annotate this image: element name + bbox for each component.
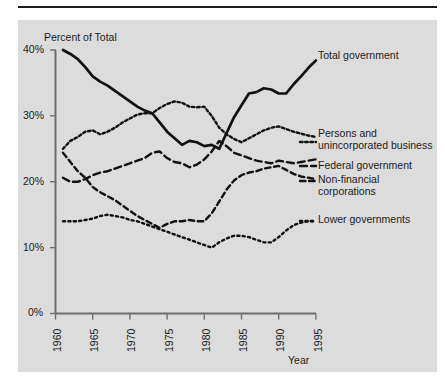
- series-label-lower-governments: Lower governments: [318, 214, 410, 226]
- axis-lines: [56, 50, 317, 314]
- x-tick-label-1960: 1960: [52, 329, 64, 352]
- x-tick-label-1965: 1965: [89, 329, 101, 352]
- x-tick-label-1995: 1995: [313, 329, 325, 352]
- x-tick-label-1990: 1990: [275, 329, 287, 352]
- y-tick-label-10: 10%: [23, 242, 44, 254]
- series-label-persons-unincorporated-business: Persons and unincorporated business: [318, 128, 432, 152]
- y-tick-label-20: 20%: [23, 176, 44, 188]
- x-tick-label-1970: 1970: [126, 329, 138, 352]
- series-line-federal-government: [63, 141, 316, 182]
- x-axis-title: Year: [288, 355, 309, 367]
- x-tick-label-1980: 1980: [201, 329, 213, 352]
- x-tick-label-1985: 1985: [238, 329, 250, 352]
- series-label-non-financial-corporations: Non-financial corporations: [318, 174, 379, 198]
- series-label-nonfin-line2: corporations: [318, 186, 379, 198]
- y-tick-label-30: 30%: [23, 110, 44, 122]
- chart-figure: Percent of Total 40% 30% 20% 10% 0% 1960…: [0, 0, 445, 391]
- y-tick-label-0: 0%: [28, 307, 43, 319]
- series-label-nonfin-line1: Non-financial: [318, 174, 379, 186]
- series-label-total-government: Total government: [318, 50, 399, 62]
- y-tick-label-40: 40%: [23, 44, 44, 56]
- series-label-federal-government: Federal government: [318, 160, 412, 172]
- label-leader-stubs: [300, 142, 316, 221]
- x-tick-label-1975: 1975: [164, 329, 176, 352]
- series-label-persons-line1: Persons and: [318, 128, 432, 140]
- series-label-persons-line2: unincorporated business: [318, 140, 432, 152]
- y-axis-title: Percent of Total: [44, 32, 117, 44]
